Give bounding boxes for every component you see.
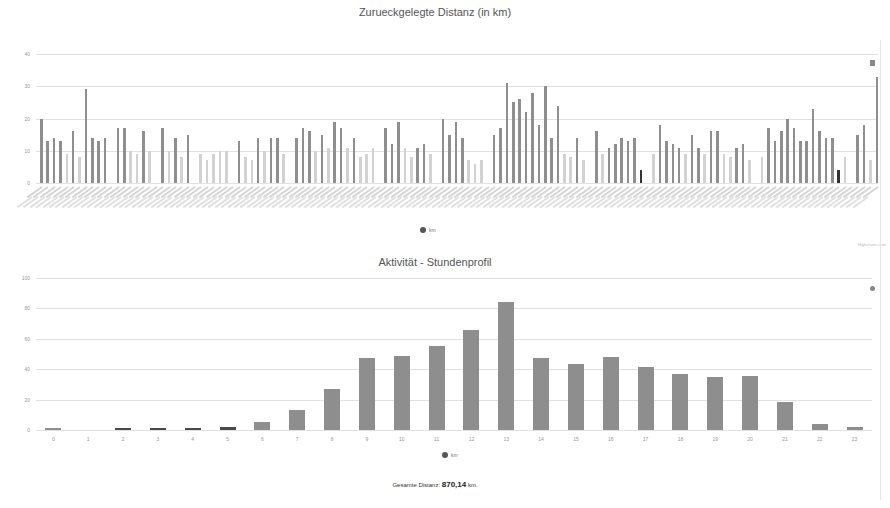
data-bar[interactable] [703,154,706,183]
data-bar[interactable] [844,157,847,183]
data-bar[interactable] [723,154,726,183]
data-bar[interactable] [748,160,751,183]
data-bar[interactable] [308,131,311,183]
hour-bar[interactable] [150,428,166,430]
data-bar[interactable] [672,144,675,183]
data-bar[interactable] [480,160,483,183]
data-bar[interactable] [805,141,808,183]
hour-bar[interactable] [498,302,514,430]
data-bar[interactable] [219,151,222,183]
data-bar[interactable] [493,135,496,183]
data-bar[interactable] [372,148,375,183]
hour-bar[interactable] [568,364,584,430]
data-bar[interactable] [442,119,445,184]
data-bar[interactable] [774,141,777,183]
hourly-chart-export-icon[interactable] [870,286,875,291]
hour-bar[interactable] [742,376,758,430]
data-bar[interactable] [518,99,521,183]
data-bar[interactable] [506,83,509,183]
data-bar[interactable] [174,138,177,183]
data-bar[interactable] [729,157,732,183]
data-bar[interactable] [66,154,69,183]
distance-chart-legend[interactable]: km [420,227,436,233]
data-bar[interactable] [327,148,330,183]
hour-bar[interactable] [115,428,131,430]
data-bar[interactable] [91,138,94,183]
hour-bar[interactable] [289,410,305,430]
data-bar[interactable] [691,135,694,183]
data-bar[interactable] [710,131,713,183]
data-bar[interactable] [767,128,770,183]
data-bar[interactable] [525,112,528,183]
data-bar[interactable] [576,138,579,183]
data-bar[interactable] [627,141,630,183]
data-bar[interactable] [97,141,100,183]
data-bar[interactable] [608,148,611,183]
hour-bar[interactable] [533,358,549,430]
hourly-chart-legend[interactable]: km [442,452,458,458]
data-bar[interactable] [735,148,738,183]
hour-bar[interactable] [672,374,688,430]
hour-bar[interactable] [324,389,340,430]
data-bar[interactable] [212,154,215,183]
data-bar[interactable] [512,102,515,183]
data-bar[interactable] [276,138,279,183]
data-bar[interactable] [793,128,796,183]
distance-chart-credit[interactable]: Highcharts.com [858,242,886,247]
data-bar[interactable] [825,138,828,183]
data-bar[interactable] [429,154,432,183]
hour-bar[interactable] [185,428,201,430]
hour-bar[interactable] [45,428,61,430]
data-bar[interactable] [742,144,745,183]
data-bar[interactable] [531,93,534,183]
data-bar[interactable] [238,141,241,183]
data-bar[interactable] [244,157,247,183]
data-bar[interactable] [161,128,164,183]
data-bar[interactable] [359,157,362,183]
hour-bar[interactable] [638,367,654,430]
data-bar[interactable] [295,138,298,183]
data-bar[interactable] [148,151,151,183]
data-bar[interactable] [582,160,585,183]
hour-bar[interactable] [847,427,863,430]
distance-chart-export-icon[interactable] [870,60,875,66]
data-bar[interactable] [499,128,502,183]
data-bar[interactable] [812,109,815,183]
data-bar[interactable] [538,125,541,183]
data-bar[interactable] [129,151,132,183]
data-bar[interactable] [59,141,62,183]
data-bar[interactable] [601,154,604,183]
hour-bar[interactable] [463,330,479,430]
data-bar[interactable] [684,154,687,183]
data-bar[interactable] [346,148,349,183]
data-bar[interactable] [697,148,700,183]
data-bar[interactable] [563,154,566,183]
data-bar[interactable] [557,106,560,183]
data-bar[interactable] [257,138,260,183]
data-bar[interactable] [780,131,783,183]
data-bar[interactable] [474,164,477,183]
data-bar[interactable] [136,154,139,183]
data-bar[interactable] [78,157,81,183]
data-bar[interactable] [461,138,464,183]
data-bar[interactable] [818,131,821,183]
data-bar[interactable] [270,138,273,183]
data-bar[interactable] [876,77,879,183]
data-bar[interactable] [423,144,426,183]
data-bar[interactable] [180,157,183,183]
data-bar[interactable] [550,138,553,183]
data-bar[interactable] [761,157,764,183]
data-bar[interactable] [467,160,470,183]
hour-bar[interactable] [359,358,375,430]
data-bar[interactable] [72,131,75,183]
data-bar[interactable] [251,160,254,183]
data-bar[interactable] [123,128,126,183]
data-bar[interactable] [633,138,636,183]
data-bar[interactable] [333,122,336,183]
data-bar[interactable] [659,125,662,183]
data-bar[interactable] [837,170,840,183]
data-bar[interactable] [786,119,789,184]
data-bar[interactable] [799,141,802,183]
data-bar[interactable] [391,144,394,183]
data-bar[interactable] [263,151,266,183]
